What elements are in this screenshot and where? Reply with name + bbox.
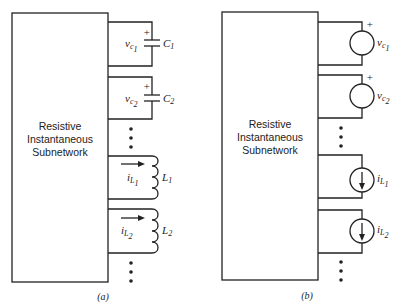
continuation-dots-b1 xyxy=(339,126,343,148)
block-label-line3: Subnetwork xyxy=(32,146,88,158)
circuit-diagram: Resistive Instantaneous Subnetwork + vc1… xyxy=(0,0,402,307)
voltage-source-icon xyxy=(350,84,374,108)
continuation-dots-a1 xyxy=(129,127,133,149)
caption-a: (a) xyxy=(97,291,109,303)
panel-b: Resistive Instantaneous Subnetwork + vc1… xyxy=(222,12,389,302)
plus-sign: + xyxy=(366,18,373,30)
continuation-dots-a2 xyxy=(129,261,133,283)
label-vc1: vc1 xyxy=(377,36,389,53)
arrow-down-icon xyxy=(359,183,365,190)
label-c2: C2 xyxy=(163,92,174,106)
voltage-source-icon xyxy=(350,31,374,55)
label-il2: iL2 xyxy=(377,223,389,240)
label-vc1: vc1 xyxy=(125,37,137,54)
arrow-down-icon xyxy=(359,234,365,241)
label-l2: L2 xyxy=(161,224,172,238)
continuation-dots-b2 xyxy=(339,260,343,282)
inductor-l2: iL2 L2 xyxy=(108,209,172,253)
current-arrow-icon xyxy=(138,215,145,221)
plus-sign: + xyxy=(143,26,150,38)
plus-sign: + xyxy=(366,71,373,83)
label-l1: L1 xyxy=(161,171,172,185)
current-arrow-icon xyxy=(138,161,145,167)
block-label-line1: Resistive xyxy=(39,120,82,132)
label-il1: iL1 xyxy=(377,172,389,189)
block-label-line3: Subnetwork xyxy=(242,144,298,156)
capacitor-c2: + vc2 C2 xyxy=(108,77,174,119)
voltage-source-2: + vc2 xyxy=(318,71,389,118)
voltage-source-1: + vc1 xyxy=(318,18,389,65)
block-label-line2: Instantaneous xyxy=(27,133,93,145)
caption-b: (b) xyxy=(301,290,313,302)
panel-a: Resistive Instantaneous Subnetwork + vc1… xyxy=(12,13,174,303)
block-label-line1: Resistive xyxy=(249,118,292,130)
plus-sign: + xyxy=(143,80,150,92)
label-c1: C1 xyxy=(163,37,174,51)
label-vc2: vc2 xyxy=(377,89,389,106)
current-source-1: iL1 xyxy=(318,155,389,198)
label-il1: iL1 xyxy=(127,171,139,188)
inductor-l1: iL1 L1 xyxy=(108,156,172,199)
block-label-line2: Instantaneous xyxy=(237,131,303,143)
label-il2: iL2 xyxy=(121,224,133,241)
current-source-2: iL2 xyxy=(318,210,389,253)
label-vc2: vc2 xyxy=(125,92,137,109)
capacitor-c1: + vc1 C1 xyxy=(108,22,174,66)
